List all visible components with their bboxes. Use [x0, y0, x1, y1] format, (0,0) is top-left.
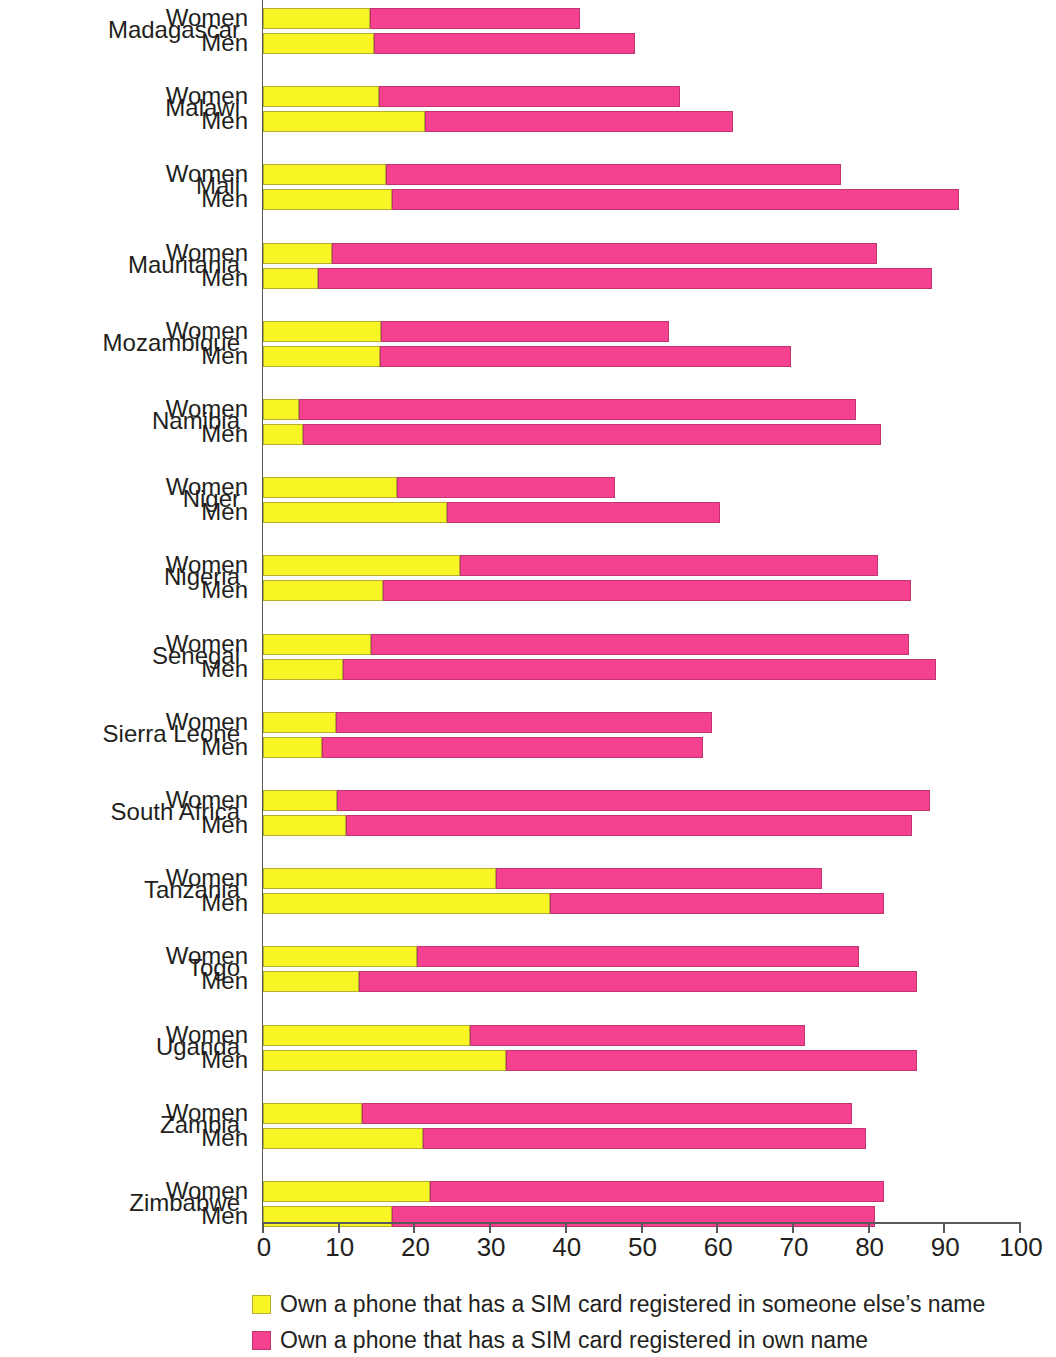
bar-track	[263, 502, 720, 523]
bar-row: Women	[0, 396, 1056, 421]
bar-segment-own-name	[346, 815, 911, 836]
bar-segment-own-name	[397, 477, 615, 498]
bar-segment-someone-else	[263, 868, 496, 889]
bar-row: Men	[0, 265, 1056, 290]
bar-row: Men	[0, 577, 1056, 602]
bar-track	[263, 268, 932, 289]
bar-segment-someone-else	[263, 164, 386, 185]
bar-row: Women	[0, 161, 1056, 186]
bar-row: Men	[0, 1125, 1056, 1150]
bar-segment-own-name	[318, 268, 932, 289]
series-label-women: Women	[0, 396, 248, 421]
country-group: MauritaniaWomenMen	[0, 240, 1056, 290]
bar-segment-someone-else	[263, 1025, 470, 1046]
bar-track	[263, 321, 669, 342]
bar-segment-own-name	[343, 659, 936, 680]
x-tick-label: 20	[385, 1234, 445, 1260]
bar-segment-someone-else	[263, 502, 447, 523]
bar-track	[263, 164, 841, 185]
bar-segment-someone-else	[263, 86, 379, 107]
bar-segment-own-name	[470, 1025, 805, 1046]
series-label-women: Women	[0, 1178, 248, 1203]
bar-segment-someone-else	[263, 580, 383, 601]
country-group: South AfricaWomenMen	[0, 787, 1056, 837]
bar-row: Men	[0, 499, 1056, 524]
bar-track	[263, 424, 881, 445]
country-group: MadagascarWomenMen	[0, 5, 1056, 55]
bar-track	[263, 893, 884, 914]
bar-segment-own-name	[332, 243, 877, 264]
bar-segment-own-name	[299, 399, 856, 420]
country-group: MozambiqueWomenMen	[0, 318, 1056, 368]
bar-segment-own-name	[550, 893, 884, 914]
bar-segment-someone-else	[263, 111, 425, 132]
bar-track	[263, 971, 917, 992]
bar-segment-someone-else	[263, 268, 318, 289]
bar-track	[263, 477, 615, 498]
bar-segment-own-name	[383, 580, 911, 601]
series-label-women: Women	[0, 787, 248, 812]
bar-track	[263, 399, 856, 420]
series-label-men: Men	[0, 30, 248, 55]
bar-row: Men	[0, 1203, 1056, 1228]
bar-row: Women	[0, 552, 1056, 577]
series-label-men: Men	[0, 186, 248, 211]
country-group: ZambiaWomenMen	[0, 1100, 1056, 1150]
bar-row: Women	[0, 943, 1056, 968]
bar-segment-own-name	[374, 33, 634, 54]
bar-segment-own-name	[392, 189, 959, 210]
bar-segment-someone-else	[263, 8, 370, 29]
bar-track	[263, 33, 635, 54]
series-label-men: Men	[0, 812, 248, 837]
bar-segment-own-name	[425, 111, 733, 132]
bar-track	[263, 243, 877, 264]
chart-plot-area: MadagascarWomenMenMalawiWomenMenMaliWome…	[0, 0, 1056, 1222]
bar-segment-someone-else	[263, 321, 381, 342]
x-tick-label: 70	[764, 1234, 824, 1260]
legend-item-own-name: Own a phone that has a SIM card register…	[252, 1324, 1056, 1356]
bar-track	[263, 737, 703, 758]
bar-track	[263, 1181, 884, 1202]
bar-row: Women	[0, 865, 1056, 890]
x-tick-label: 40	[537, 1234, 597, 1260]
x-tick-label: 0	[234, 1234, 294, 1260]
bar-row: Women	[0, 1022, 1056, 1047]
y-axis-line	[262, 0, 263, 1222]
series-label-men: Men	[0, 343, 248, 368]
bar-track	[263, 86, 680, 107]
legend-label-own-name: Own a phone that has a SIM card register…	[280, 1329, 868, 1352]
bar-row: Women	[0, 787, 1056, 812]
series-label-women: Women	[0, 865, 248, 890]
bar-segment-own-name	[380, 346, 790, 367]
bar-segment-someone-else	[263, 189, 392, 210]
country-group: NamibiaWomenMen	[0, 396, 1056, 446]
bar-track	[263, 946, 859, 967]
bar-row: Women	[0, 318, 1056, 343]
series-label-men: Men	[0, 656, 248, 681]
series-label-women: Women	[0, 318, 248, 343]
legend-swatch-pink-icon	[252, 1331, 271, 1350]
country-group: Sierra LeoneWomenMen	[0, 709, 1056, 759]
country-group: UgandaWomenMen	[0, 1022, 1056, 1072]
series-label-men: Men	[0, 577, 248, 602]
bar-segment-someone-else	[263, 659, 343, 680]
x-tick-label: 60	[688, 1234, 748, 1260]
bar-row: Men	[0, 968, 1056, 993]
bar-track	[263, 346, 791, 367]
legend-swatch-yellow-icon	[252, 1295, 271, 1314]
bar-segment-own-name	[496, 868, 822, 889]
bar-segment-someone-else	[263, 634, 371, 655]
series-label-men: Men	[0, 1125, 248, 1150]
bar-row: Men	[0, 890, 1056, 915]
series-label-men: Men	[0, 421, 248, 446]
bar-segment-own-name	[423, 1128, 865, 1149]
bar-segment-own-name	[381, 321, 669, 342]
series-label-men: Men	[0, 1047, 248, 1072]
bar-segment-someone-else	[263, 893, 550, 914]
bar-segment-own-name	[337, 790, 930, 811]
bar-row: Men	[0, 30, 1056, 55]
bar-row: Women	[0, 1100, 1056, 1125]
bar-row: Men	[0, 343, 1056, 368]
country-group: TanzaniaWomenMen	[0, 865, 1056, 915]
